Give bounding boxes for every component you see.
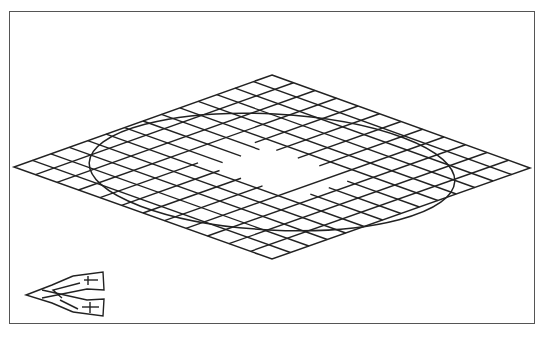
axis-indicator-icon: [26, 272, 104, 316]
isometric-drawing: [0, 0, 542, 343]
hatch-lines: [32, 82, 511, 253]
